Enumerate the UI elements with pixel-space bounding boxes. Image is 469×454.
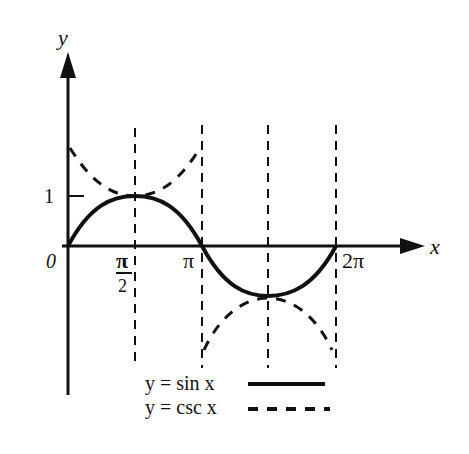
csc-curve-positive [70,148,200,196]
x-tick-label-2pi: 2π [342,248,364,273]
legend-sin-label: y = sin x [145,372,215,395]
x-axis-label: x [429,234,440,259]
x-tick-label-pi-over-2-num: π [116,248,128,273]
x-tick-label-pi: π [183,248,194,273]
legend: y = sin x y = csc x [145,372,330,419]
origin-label: 0 [46,250,56,272]
x-axis-arrow-icon [400,238,425,254]
chart: y x 0 1 π 2 π 2π y = sin x y = csc x [0,0,469,454]
y-tick-label-1: 1 [44,185,54,207]
x-tick-label-pi-over-2-den: 2 [118,276,127,296]
y-axis-label: y [56,25,68,50]
legend-csc-label: y = csc x [145,396,217,419]
y-axis-arrow-icon [60,52,76,78]
